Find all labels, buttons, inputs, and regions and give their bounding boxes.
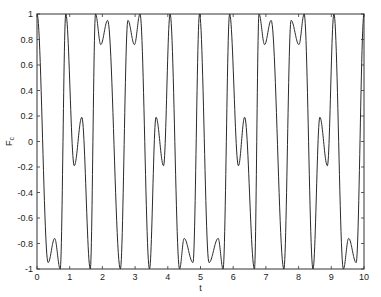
x-tick-label: 8: [296, 272, 301, 282]
y-tick-label: 1: [28, 9, 33, 19]
x-tick-label: 9: [329, 272, 334, 282]
x-tick-label: 5: [198, 272, 203, 282]
series-line-f-c: [37, 14, 364, 269]
chart: 012345678910 -1-0.8-0.6-0.4-0.200.20.40.…: [0, 0, 381, 297]
y-axis: -1-0.8-0.6-0.4-0.200.20.40.60.81: [17, 9, 364, 274]
x-tick-label: 6: [231, 272, 236, 282]
x-tick-label: 7: [263, 272, 268, 282]
x-tick-label: 1: [67, 272, 72, 282]
y-tick-label: -0.2: [17, 162, 33, 172]
y-tick-label: -0.8: [17, 239, 33, 249]
y-axis-label-subscript: c: [8, 137, 15, 141]
y-tick-label: 0.2: [20, 111, 33, 121]
x-tick-label: 10: [359, 272, 369, 282]
y-tick-label: 0.6: [20, 60, 33, 70]
x-axis-label: t: [199, 283, 202, 293]
x-tick-label: 3: [133, 272, 138, 282]
y-tick-label: -1: [25, 264, 33, 274]
y-tick-label: 0.4: [20, 86, 33, 96]
y-tick-label: -0.6: [17, 213, 33, 223]
y-axis-label: Fc: [4, 137, 15, 147]
y-axis-label-group: Fc: [4, 137, 15, 147]
x-tick-label: 2: [100, 272, 105, 282]
y-tick-label: 0: [28, 137, 33, 147]
y-tick-label: -0.4: [17, 188, 33, 198]
x-tick-label: 4: [165, 272, 170, 282]
x-tick-label: 0: [34, 272, 39, 282]
y-tick-label: 0.8: [20, 35, 33, 45]
curve-layer: [37, 14, 364, 269]
